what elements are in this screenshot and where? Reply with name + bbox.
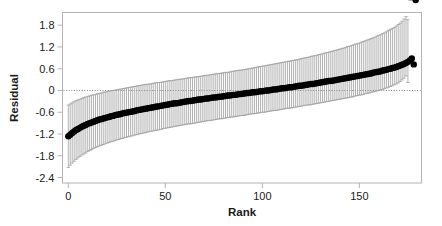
x-tick-label: 100 [253,190,271,202]
y-tick-label: 1.2 [39,41,54,53]
plot-frame [63,13,422,184]
data-point [409,55,415,61]
x-tick-label: 50 [159,190,171,202]
residual-rank-chart: 1.81.20.60-0.6-1.2-1.8-2.4 050100150 Ran… [0,0,442,226]
y-tick-label: 0 [48,84,54,96]
y-axis-ticks: 1.81.20.60-0.6-1.2-1.8-2.4 [36,19,63,183]
data-point [411,61,417,67]
data-point [412,0,418,3]
x-tick-label: 150 [350,190,368,202]
x-tick-label: 0 [65,190,71,202]
x-axis-title: Rank [228,206,257,218]
y-tick-label: -1.8 [36,150,55,162]
y-tick-label: -2.4 [36,172,55,184]
y-tick-label: 1.8 [39,19,54,31]
error-bars [67,0,418,167]
y-tick-label: -1.2 [36,128,55,140]
y-tick-label: -0.6 [36,106,55,118]
x-axis-ticks: 050100150 [65,183,368,202]
y-tick-label: 0.6 [39,63,54,75]
y-axis-title: Residual [8,74,20,122]
plot-canvas: 1.81.20.60-0.6-1.2-1.8-2.4 050100150 Ran… [0,0,442,226]
